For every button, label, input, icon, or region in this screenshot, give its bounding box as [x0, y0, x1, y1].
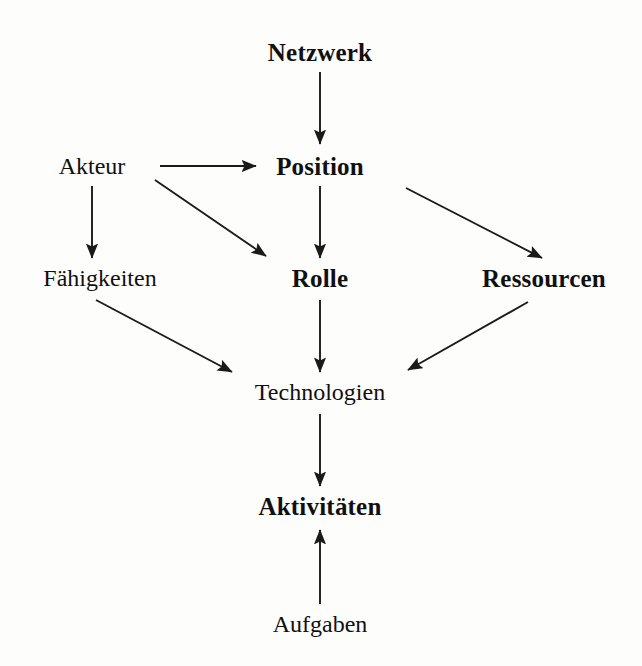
edge-faehigkeiten-technologien — [96, 300, 232, 372]
node-label-rolle: Rolle — [292, 266, 349, 291]
node-aufgaben: Aufgaben — [273, 612, 368, 636]
node-label-netzwerk: Netzwerk — [268, 40, 372, 65]
node-rolle: Rolle — [292, 266, 349, 291]
edge-akteur-rolle — [155, 180, 266, 256]
node-label-aufgaben: Aufgaben — [273, 612, 368, 636]
node-label-position: Position — [276, 154, 364, 179]
node-label-aktivitaeten: Aktivitäten — [258, 494, 381, 519]
node-faehigkeiten: Fähigkeiten — [43, 266, 156, 290]
edge-ressourcen-technologien — [408, 302, 528, 370]
edge-layer — [0, 0, 642, 666]
edge-position-ressourcen — [406, 188, 542, 258]
node-netzwerk: Netzwerk — [268, 40, 372, 65]
node-ressourcen: Ressourcen — [482, 266, 606, 291]
node-technologien: Technologien — [255, 380, 385, 404]
node-akteur: Akteur — [59, 154, 126, 178]
node-aktivitaeten: Aktivitäten — [258, 494, 381, 519]
node-label-faehigkeiten: Fähigkeiten — [43, 266, 156, 290]
node-position: Position — [276, 154, 364, 179]
node-label-technologien: Technologien — [255, 380, 385, 404]
node-label-akteur: Akteur — [59, 154, 126, 178]
node-label-ressourcen: Ressourcen — [482, 266, 606, 291]
concept-diagram: NetzwerkAkteurPositionFähigkeitenRolleRe… — [0, 0, 642, 666]
